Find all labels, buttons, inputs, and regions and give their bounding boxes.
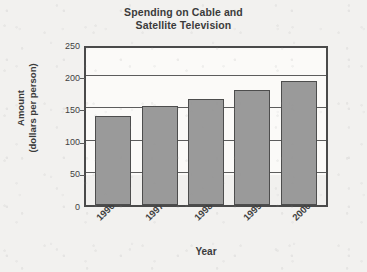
bar-slot [233, 48, 271, 205]
bar-slot [280, 48, 318, 205]
y-tick-mark-50 [80, 175, 85, 176]
y-axis-title-line-1: Amount [15, 53, 27, 163]
bar-slot [141, 48, 179, 205]
y-tick-label-50: 50 [56, 170, 80, 179]
y-tick-label-0: 0 [56, 203, 80, 212]
bar-1999[interactable] [234, 90, 270, 205]
bar-1997[interactable] [142, 106, 178, 205]
y-tick-mark-200 [80, 78, 85, 79]
y-tick-mark-100 [80, 143, 85, 144]
y-tick-label-250: 250 [56, 42, 80, 51]
bar-2000[interactable] [281, 81, 317, 205]
chart-title: Spending on Cable and Satellite Televisi… [0, 6, 367, 32]
y-axis-title-line-2: (dollars per person) [27, 53, 39, 163]
x-axis-title: Year [84, 246, 328, 257]
y-tick-label-100: 100 [56, 138, 80, 147]
bar-series [86, 48, 326, 205]
x-axis-tick-labels: 19961997199819992000 [84, 207, 328, 247]
y-tick-mark-150 [80, 110, 85, 111]
y-axis-title: Amount (dollars per person) [15, 53, 39, 163]
y-tick-label-150: 150 [56, 106, 80, 115]
chart-title-line-2: Satellite Television [0, 19, 367, 32]
y-axis-tick-labels: 050100150200250 [52, 46, 80, 207]
bar-1996[interactable] [95, 116, 131, 205]
y-tick-label-200: 200 [56, 74, 80, 83]
chart-title-line-1: Spending on Cable and [0, 6, 367, 19]
bar-slot [94, 48, 132, 205]
plot-area [84, 46, 328, 207]
bar-slot [187, 48, 225, 205]
bar-1998[interactable] [188, 99, 224, 205]
